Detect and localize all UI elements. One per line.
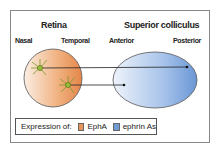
retina-shape <box>24 49 82 107</box>
ephrin-swatch-icon <box>113 123 120 131</box>
legend-prefix: Expression of: <box>21 122 72 131</box>
legend: Expression of: EphA ephrin As <box>15 118 157 135</box>
legend-ephrin: ephrin As <box>123 122 156 131</box>
colliculus-shape <box>113 52 197 108</box>
temporal-label: Temporal <box>61 37 90 44</box>
nasal-label: Nasal <box>15 37 32 44</box>
posterior-label: Posterior <box>173 37 201 44</box>
retina-title: Retina <box>41 20 67 30</box>
anterior-label: Anterior <box>109 37 134 44</box>
legend-epha: EphA <box>87 122 107 131</box>
epha-swatch-icon <box>78 123 85 131</box>
colliculus-title: Superior colliculus <box>124 20 199 30</box>
